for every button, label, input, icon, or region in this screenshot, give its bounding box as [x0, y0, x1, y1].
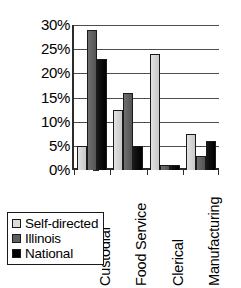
y-tick-label: 0%	[26, 162, 70, 177]
bar	[186, 134, 196, 170]
legend-item: Illinois	[12, 231, 98, 246]
x-tick-mark	[183, 170, 184, 175]
bar-group	[147, 25, 183, 170]
y-tick-label: 10%	[26, 114, 70, 129]
x-tick-mark	[110, 170, 111, 175]
bar	[133, 146, 143, 170]
bar-group	[110, 25, 146, 170]
x-axis-label: Clerical	[171, 176, 186, 286]
x-tick-mark	[74, 170, 75, 175]
x-axis-ticks	[74, 170, 219, 175]
y-axis: 0%5%10%15%20%25%30%	[26, 14, 70, 182]
bar-group	[74, 25, 110, 170]
bar	[87, 30, 97, 170]
legend: Self-directedIllinoisNational	[7, 212, 104, 265]
legend-label: Self-directed	[25, 217, 98, 231]
y-tick-label: 25%	[26, 41, 70, 56]
bar	[196, 156, 206, 171]
bar	[77, 146, 87, 170]
bar	[113, 110, 123, 170]
legend-swatch-icon	[12, 234, 21, 243]
bar	[123, 93, 133, 170]
y-tick-label: 5%	[26, 138, 70, 153]
bar-groups	[74, 25, 219, 170]
x-tick-mark	[218, 170, 219, 175]
bar	[150, 54, 160, 170]
y-tick-label: 15%	[26, 90, 70, 105]
x-tick-mark	[147, 170, 148, 175]
bar-group	[183, 25, 219, 170]
x-axis-label: Manufacturing	[207, 176, 222, 286]
y-tick-label: 30%	[26, 17, 70, 32]
legend-label: National	[25, 247, 73, 261]
y-tick-label: 20%	[26, 65, 70, 80]
bar-chart: 0%5%10%15%20%25%30% CustodialFood Servic…	[0, 0, 241, 288]
bar	[97, 59, 107, 170]
legend-swatch-icon	[12, 249, 21, 258]
x-axis-label: Food Service	[134, 176, 149, 286]
legend-swatch-icon	[12, 219, 21, 228]
legend-item: Self-directed	[12, 216, 98, 231]
legend-label: Illinois	[25, 232, 61, 246]
legend-item: National	[12, 246, 98, 261]
bar	[206, 141, 216, 170]
